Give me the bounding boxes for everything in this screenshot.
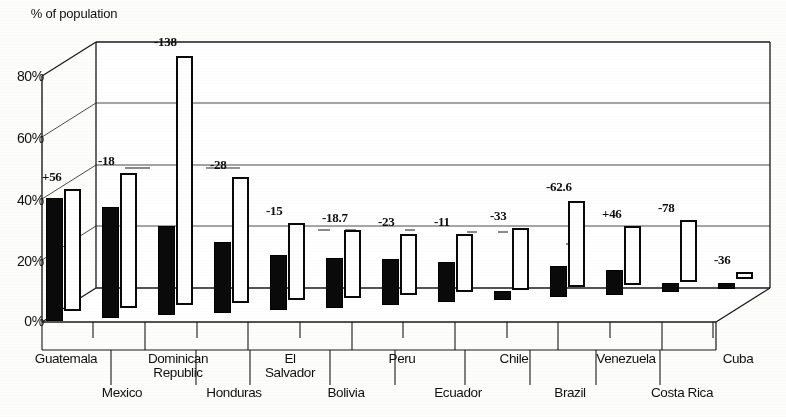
category-label-6: Peru: [357, 352, 447, 366]
category-label-9: Brazil: [525, 386, 615, 400]
category-label-7: Ecuador: [413, 386, 503, 400]
category-label-5: Bolivia: [301, 386, 391, 400]
category-label-11: Costa Rica: [637, 386, 727, 400]
category-label-10: Venezuela: [581, 352, 671, 366]
category-label-1: Mexico: [77, 386, 167, 400]
category-label-4: El Salvador: [245, 352, 335, 380]
chart-root: % of population: [0, 0, 786, 417]
category-label-3: Honduras: [189, 386, 279, 400]
category-label-8: Chile: [469, 352, 559, 366]
plot-area: 80% 60% 40% 20% 0% +56-18-138-28-15-18.7…: [0, 0, 786, 417]
category-label-layer: GuatemalaMexicoDominican RepublicHondura…: [0, 0, 786, 417]
category-label-0: Guatemala: [21, 352, 111, 366]
category-label-12: Cuba: [693, 352, 783, 366]
category-label-2: Dominican Republic: [133, 352, 223, 380]
